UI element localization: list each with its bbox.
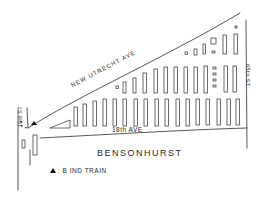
city-blocks bbox=[22, 26, 240, 155]
legend-text: : B IND TRAIN bbox=[58, 167, 107, 174]
map-drawing bbox=[0, 0, 261, 197]
65th-st-label: 65th ST bbox=[245, 64, 251, 87]
train-legend-icon bbox=[50, 168, 56, 173]
18th-ave-label: 18th AVE bbox=[112, 126, 143, 133]
18th-ave-line bbox=[40, 128, 247, 138]
map: NEW UTRECHT AVE 18th AVE 65th ST 15th ST… bbox=[0, 0, 261, 197]
area-label: BENSONHURST bbox=[97, 148, 183, 158]
left-street-line-2 bbox=[27, 108, 28, 128]
legend: : B IND TRAIN bbox=[50, 167, 107, 174]
15th-st-label: 15th ST bbox=[17, 106, 23, 127]
